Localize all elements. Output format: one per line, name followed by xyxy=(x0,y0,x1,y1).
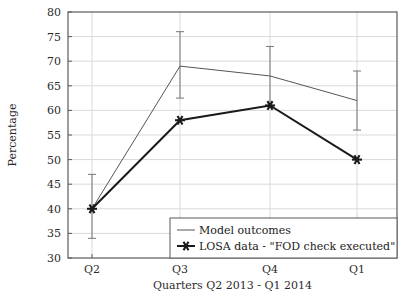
line-chart: 3035404550556065707580Q2Q3Q4Q1Quarters Q… xyxy=(0,0,409,302)
y-axis-tick-label: 75 xyxy=(47,31,61,44)
x-axis-tick-label: Q1 xyxy=(349,263,365,276)
y-axis-tick-label: 45 xyxy=(47,178,61,191)
y-axis-tick-label: 50 xyxy=(47,154,61,167)
y-axis-tick-label: 70 xyxy=(47,55,61,68)
x-axis-tick-label: Q2 xyxy=(84,263,100,276)
y-axis-title: Percentage xyxy=(6,104,19,167)
legend-label-model-outcomes: Model outcomes xyxy=(199,224,291,237)
x-axis-title: Quarters Q2 2013 - Q1 2014 xyxy=(153,279,312,292)
y-axis-tick-label: 60 xyxy=(47,104,61,117)
chart-figure: 3035404550556065707580Q2Q3Q4Q1Quarters Q… xyxy=(0,0,409,302)
y-axis-tick-label: 35 xyxy=(47,227,61,240)
series-line-model-outcomes xyxy=(92,66,357,209)
y-axis-tick-label: 80 xyxy=(47,6,61,19)
y-axis-tick-label: 40 xyxy=(47,203,61,216)
y-axis-tick-label: 65 xyxy=(47,80,61,93)
x-axis-tick-label: Q4 xyxy=(262,263,278,276)
y-axis-tick-label: 30 xyxy=(47,252,61,265)
series-line-losa-data xyxy=(92,105,357,208)
y-axis-tick-label: 55 xyxy=(47,129,61,142)
x-axis-tick-label: Q3 xyxy=(172,263,188,276)
legend-label-losa-data: LOSA data - "FOD check executed" xyxy=(199,240,395,253)
